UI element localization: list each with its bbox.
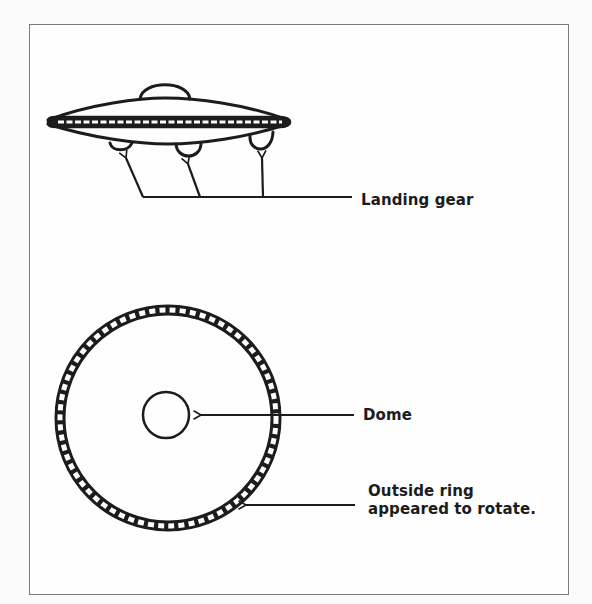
dome-circle: [143, 392, 189, 438]
outside-ring-label-line2: appeared to rotate.: [368, 500, 536, 518]
saucer-top-view: [60, 310, 276, 526]
landing-gear-arrows: [126, 158, 352, 197]
landing-gear-center: [176, 144, 201, 156]
landing-gear-left: [110, 143, 132, 150]
outside-ring-label: Outside ring appeared to rotate.: [368, 482, 536, 518]
outside-ring-label-line1: Outside ring: [368, 482, 536, 500]
saucer-side-view: [48, 85, 290, 156]
dome-label: Dome: [363, 406, 412, 424]
landing-gear-label: Landing gear: [361, 191, 474, 209]
